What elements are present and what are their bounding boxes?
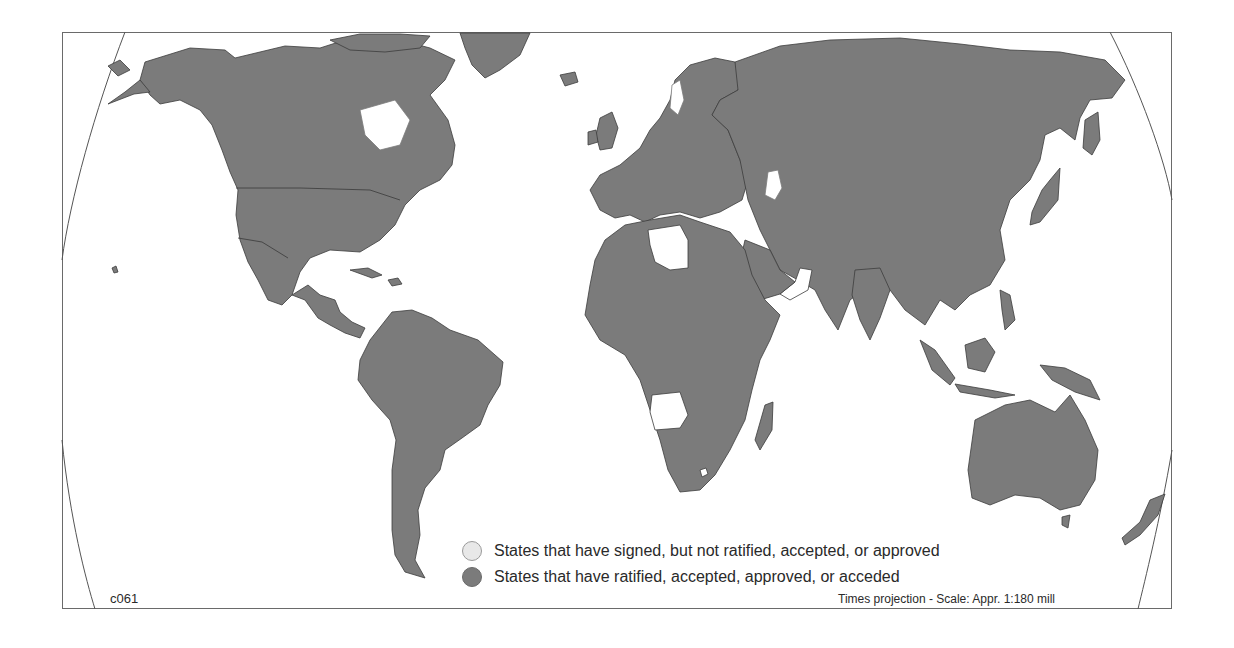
angola-signed xyxy=(650,392,688,430)
australia xyxy=(968,395,1098,510)
hispaniola xyxy=(388,278,402,286)
india xyxy=(852,268,890,340)
japan xyxy=(1030,168,1060,225)
sumatra xyxy=(920,340,955,385)
south-america xyxy=(358,310,503,578)
light-circle-icon xyxy=(462,541,482,561)
map-code-label: c061 xyxy=(110,591,138,606)
dark-circle-icon xyxy=(462,567,482,587)
uk xyxy=(596,112,618,150)
hawaii xyxy=(112,266,118,273)
iceland xyxy=(560,72,578,86)
tasmania xyxy=(1062,515,1070,528)
legend: States that have signed, but not ratifie… xyxy=(462,539,940,591)
legend-item-ratified: States that have ratified, accepted, app… xyxy=(462,565,940,589)
legend-label-ratified: States that have ratified, accepted, app… xyxy=(494,568,900,586)
greenland xyxy=(460,33,530,78)
north-america xyxy=(140,40,455,305)
legend-item-signed: States that have signed, but not ratifie… xyxy=(462,539,940,563)
madagascar xyxy=(755,402,773,450)
central-america xyxy=(292,285,365,338)
philippines xyxy=(1000,290,1015,330)
borneo xyxy=(965,338,995,372)
aleutian-island xyxy=(108,60,130,76)
legend-label-signed: States that have signed, but not ratifie… xyxy=(494,542,940,560)
projection-edge-right xyxy=(1110,32,1172,200)
java xyxy=(955,384,1015,398)
projection-edge-left-lower xyxy=(62,440,95,609)
cuba xyxy=(350,268,382,278)
projection-scale-label: Times projection - Scale: Appr. 1:180 mi… xyxy=(838,592,1055,606)
kamchatka xyxy=(1083,112,1100,155)
ireland xyxy=(588,130,598,145)
